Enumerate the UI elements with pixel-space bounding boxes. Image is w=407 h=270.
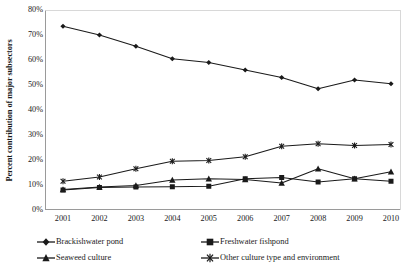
x-axis-tick-label: 2006: [225, 214, 265, 223]
legend-item-freshwater-fishpond[interactable]: Freshwater fishpond: [200, 234, 289, 249]
data-point-marker-diamond: [352, 77, 357, 82]
y-axis-tick-label: 50%: [17, 81, 43, 89]
legend-label: Seaweed culture: [56, 253, 111, 262]
y-axis-tick-label: 10%: [17, 181, 43, 189]
y-axis-tick-label: 40%: [17, 106, 43, 114]
chart-legend: Brackishwater pond Seaweed culture Fresh…: [0, 234, 407, 270]
data-point-marker-diamond: [206, 60, 211, 65]
y-axis-tick-label: 60%: [17, 56, 43, 64]
series-freshwater-fishpond: [61, 175, 394, 193]
x-axis-tick-label: 2005: [189, 214, 229, 223]
data-point-marker-diamond: [316, 86, 321, 91]
data-point-marker-diamond: [133, 44, 138, 49]
y-axis-tick-label: 30%: [17, 131, 43, 139]
data-point-marker-square: [279, 175, 284, 180]
chart-figure: Percent contribution of major subsectors…: [0, 0, 407, 270]
data-point-marker-square: [170, 184, 175, 189]
data-point-marker-square: [206, 184, 211, 189]
x-axis-tick-label: 2003: [116, 214, 156, 223]
y-axis-tick-label: 70%: [17, 31, 43, 39]
data-point-marker-square: [389, 179, 394, 184]
data-point-marker-diamond: [170, 56, 175, 61]
y-axis-tick-labels: 80%70%60%50%40%30%20%10%0%: [14, 0, 43, 270]
legend-marker-square-icon: [200, 236, 220, 248]
data-point-marker-diamond: [243, 67, 248, 72]
x-axis-tick-label: 2001: [43, 214, 83, 223]
series-brackishwater-pond: [60, 24, 393, 92]
legend-label: Other culture type and environment: [220, 253, 340, 262]
legend-label: Freshwater fishpond: [220, 237, 289, 246]
y-axis-tick-label: 0%: [17, 206, 43, 214]
x-axis-tick-label: 2002: [79, 214, 119, 223]
x-axis-tick-label: 2008: [298, 214, 338, 223]
legend-marker-triangle-icon: [36, 252, 56, 264]
x-axis-tick-label: 2007: [262, 214, 302, 223]
data-point-marker-diamond: [279, 75, 284, 80]
axis-frame: [45, 10, 401, 210]
y-axis-title-text: Percent contribution of major subsectors: [5, 39, 14, 181]
y-axis-tick-label: 20%: [17, 156, 43, 164]
data-point-marker-diamond: [60, 24, 65, 29]
legend-item-brackishwater-pond[interactable]: Brackishwater pond: [36, 234, 123, 249]
series-other-culture-type-and-environment: [61, 141, 394, 185]
series-line: [63, 169, 391, 190]
series-seaweed-culture: [60, 166, 394, 193]
legend-item-other-culture-type-and-environment[interactable]: Other culture type and environment: [200, 250, 340, 265]
data-point-marker-diamond: [97, 32, 102, 37]
legend-item-seaweed-culture[interactable]: Seaweed culture: [36, 250, 111, 265]
plot-svg: [45, 10, 401, 210]
x-axis-tick-labels: 2001200220032004200520062007200820092010: [45, 214, 401, 228]
plot-area: [45, 10, 401, 210]
x-axis-tick-label: 2009: [335, 214, 375, 223]
x-axis-tick-label: 2010: [371, 214, 407, 223]
data-point-marker-triangle: [315, 166, 321, 172]
legend-marker-diamond-icon: [36, 236, 56, 248]
data-point-marker-diamond: [388, 81, 393, 86]
data-point-marker-square: [316, 180, 321, 185]
data-series-layer: [60, 24, 394, 193]
data-point-marker-triangle: [388, 169, 394, 175]
legend-label: Brackishwater pond: [56, 237, 123, 246]
series-line: [63, 26, 391, 89]
legend-marker-star-x-icon: [200, 252, 220, 264]
x-axis-tick-label: 2004: [152, 214, 192, 223]
y-axis-tick-label: 80%: [17, 6, 43, 14]
